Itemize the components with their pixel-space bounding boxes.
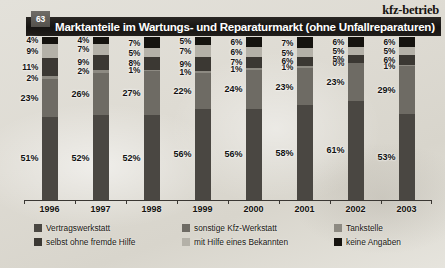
bar-segment xyxy=(93,73,109,115)
bar-segment xyxy=(195,57,211,72)
bar-column: 52%27%1%8%5%7% xyxy=(126,37,177,200)
bar-value-label: 9% xyxy=(27,47,39,55)
bar-column: 51%23%2%11%9%4% xyxy=(24,37,75,200)
stacked-bar xyxy=(144,37,160,200)
bar-segment xyxy=(297,48,313,56)
bar-value-label: 6% xyxy=(231,38,243,46)
bar-column: 56%24%1%7%6%6% xyxy=(228,37,279,200)
bar-value-label: 7% xyxy=(231,58,243,66)
legend-swatch-icon xyxy=(182,224,190,232)
legend-label: Vertragswerkstatt xyxy=(46,223,110,233)
bar-segment xyxy=(42,79,58,116)
stacked-bar xyxy=(348,37,364,200)
bar-segment xyxy=(399,47,415,55)
bar-group: 51%23%2%11%9%4%52%26%2%9%7%4%52%27%1%8%5… xyxy=(24,37,432,200)
chart-title: Marktanteile im Wartungs- und Reparaturm… xyxy=(55,18,435,35)
stacked-bar xyxy=(246,37,262,200)
bar-value-label: 4% xyxy=(27,36,39,44)
bar-column: 58%23%1%6%5%7% xyxy=(279,37,330,200)
bar-segment xyxy=(42,117,58,200)
bar-value-label: 23% xyxy=(275,83,293,91)
bar-value-label: 11% xyxy=(22,63,38,71)
bar-value-label: 26% xyxy=(71,90,89,98)
bar-value-label: 1% xyxy=(180,68,192,76)
x-axis-label: 2002 xyxy=(330,204,381,214)
legend-swatch-icon xyxy=(334,238,342,246)
bar-column: 52%26%2%9%7%4% xyxy=(75,37,126,200)
bar-column: 53%29%1%6%5%6% xyxy=(381,37,432,200)
bar-segment xyxy=(93,44,109,55)
bar-segment xyxy=(195,37,211,45)
bar-segment xyxy=(246,57,262,68)
x-axis-label: 2000 xyxy=(228,204,279,214)
legend-label: Tankstelle xyxy=(346,223,383,233)
stacked-bar xyxy=(297,37,313,200)
bar-segment xyxy=(348,63,364,100)
bar-value-label: 5% xyxy=(129,49,141,57)
bar-value-label: 56% xyxy=(224,150,242,158)
legend-item: Vertragswerkstatt xyxy=(34,221,182,234)
legend-item: Tankstelle xyxy=(334,221,434,234)
bar-value-label: 6% xyxy=(231,48,243,56)
bar-segment xyxy=(246,47,262,57)
legend-item: keine Angaben xyxy=(334,235,434,248)
legend-label: sonstige Kfz-Werkstatt xyxy=(194,223,277,233)
bar-value-label: 5% xyxy=(180,37,192,45)
legend-swatch-icon xyxy=(34,238,42,246)
bar-column: 56%22%1%9%7%5% xyxy=(177,37,228,200)
bar-segment xyxy=(246,70,262,109)
bar-value-label: 4% xyxy=(78,36,90,44)
bar-segment xyxy=(399,66,415,113)
bar-segment xyxy=(144,71,160,115)
legend-label: selbst ohne fremde Hilfe xyxy=(46,237,135,247)
bar-segment xyxy=(195,73,211,109)
bar-value-label: 29% xyxy=(377,86,395,94)
bar-segment xyxy=(93,115,109,200)
plot-area: 51%23%2%11%9%4%52%26%2%9%7%4%52%27%1%8%5… xyxy=(24,37,432,200)
bar-column: 61%23%0%5%5%6% xyxy=(330,37,381,200)
bar-value-label: 52% xyxy=(122,154,140,162)
stacked-bar xyxy=(195,37,211,200)
bar-value-label: 6% xyxy=(282,57,294,65)
x-axis-label: 1996 xyxy=(24,204,75,214)
legend-swatch-icon xyxy=(334,224,342,232)
bar-segment xyxy=(348,101,364,200)
bar-segment xyxy=(144,115,160,200)
bar-segment xyxy=(297,57,313,67)
legend-swatch-icon xyxy=(34,224,42,232)
publication-brand: kfz-betrieb xyxy=(382,3,439,18)
bar-segment xyxy=(348,55,364,63)
bar-segment xyxy=(246,37,262,47)
bar-value-label: 9% xyxy=(180,60,192,68)
bar-segment xyxy=(144,57,160,70)
bar-value-label: 6% xyxy=(384,38,396,46)
bar-value-label: 7% xyxy=(282,39,294,47)
bar-segment xyxy=(348,47,364,55)
bar-segment xyxy=(42,44,58,59)
x-axis-label: 2001 xyxy=(279,204,330,214)
bar-value-label: 22% xyxy=(173,87,191,95)
bar-value-label: 51% xyxy=(20,154,38,162)
bar-segment xyxy=(297,105,313,200)
bar-segment xyxy=(195,109,211,200)
stacked-bar xyxy=(399,37,415,200)
stacked-bar xyxy=(93,37,109,200)
x-axis-label: 1998 xyxy=(126,204,177,214)
bar-value-label: 7% xyxy=(180,47,192,55)
bar-value-label: 61% xyxy=(326,146,344,154)
bar-segment xyxy=(144,48,160,56)
legend-label: keine Angaben xyxy=(346,237,401,247)
bar-value-label: 2% xyxy=(27,74,39,82)
bar-segment xyxy=(42,58,58,76)
bar-value-label: 9% xyxy=(78,58,90,66)
bar-segment xyxy=(399,114,415,200)
x-axis-label: 1999 xyxy=(177,204,228,214)
bar-value-label: 5% xyxy=(282,49,294,57)
bar-segment xyxy=(246,109,262,200)
bar-value-label: 23% xyxy=(20,94,38,102)
bar-segment xyxy=(93,55,109,70)
bar-value-label: 23% xyxy=(326,78,344,86)
x-axis-labels: 19961997199819992000200120022003 xyxy=(24,204,432,214)
stacked-bar xyxy=(42,37,58,200)
bar-segment xyxy=(297,68,313,105)
